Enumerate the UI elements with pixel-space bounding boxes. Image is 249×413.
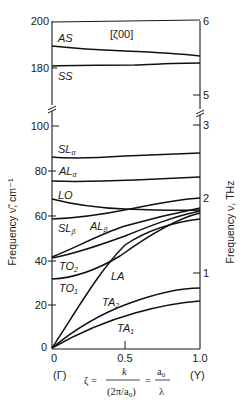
right-ticks: [193, 95, 200, 273]
svg-text:6: 6: [203, 15, 209, 27]
svg-text:ζ =: ζ =: [84, 375, 97, 387]
left-axis-title: Frequency ν̃, cm⁻¹: [6, 178, 18, 266]
svg-text:ALα: ALα: [58, 165, 77, 178]
svg-text:LA: LA: [111, 270, 124, 282]
svg-text:λ: λ: [159, 386, 165, 397]
left-ticks: [48, 68, 59, 305]
svg-text:AS: AS: [57, 32, 73, 44]
curve-AS: [52, 46, 200, 56]
svg-text:SS: SS: [58, 70, 73, 82]
svg-text:3: 3: [203, 119, 209, 131]
direction-label: [ζ00]: [110, 28, 133, 40]
svg-text:TA1: TA1: [117, 322, 134, 335]
svg-text:0.5: 0.5: [117, 352, 132, 364]
svg-text:a0: a0: [157, 366, 166, 379]
svg-text:=: =: [145, 375, 151, 386]
svg-text:k: k: [122, 366, 127, 377]
curve-TA2: [52, 288, 200, 348]
svg-text:20: 20: [35, 299, 47, 311]
svg-text:60: 60: [35, 210, 47, 222]
svg-text:SLα: SLα: [58, 143, 76, 156]
phonon-dispersion-chart: 200 180 100 80 60 40 20 0 6 5 3 2 1 0 0.…: [0, 0, 249, 413]
svg-text:ALβ: ALβ: [89, 220, 107, 234]
svg-text:2: 2: [203, 192, 209, 204]
curve-SS: [52, 63, 200, 66]
svg-text:TA2: TA2: [102, 296, 119, 309]
axis-break-marks: [48, 105, 204, 117]
svg-text:180: 180: [31, 62, 49, 74]
svg-text:100: 100: [31, 120, 49, 132]
svg-text:1: 1: [203, 267, 209, 279]
svg-text:LO: LO: [58, 189, 73, 201]
x-axis-formula: ζ = k (2π/a0) = a0 λ: [84, 366, 170, 399]
svg-text:TO2: TO2: [59, 260, 78, 273]
svg-text:(2π/a0): (2π/a0): [107, 386, 136, 399]
svg-text:TO1: TO1: [59, 282, 78, 295]
gamma-point-label: (Γ): [53, 369, 66, 381]
left-tick-labels: 200 180 100 80 60 40 20 0: [31, 15, 49, 353]
svg-text:200: 200: [31, 15, 49, 27]
svg-text:5: 5: [203, 89, 209, 101]
svg-text:0: 0: [51, 352, 57, 364]
svg-text:80: 80: [35, 165, 47, 177]
x-tick-labels: 0 0.5 1.0: [51, 352, 208, 364]
svg-text:1.0: 1.0: [192, 352, 207, 364]
right-tick-labels: 6 5 3 2 1: [203, 15, 209, 279]
right-axis-title: Frequency ν, THz: [224, 181, 236, 264]
svg-text:40: 40: [35, 255, 47, 267]
curve-labels: AS SS SLα ALα LO SLβ ALβ TO2 TO1 LA TA2 …: [57, 32, 134, 335]
plot-frame: [52, 20, 200, 349]
dispersion-curves: [52, 46, 200, 348]
y-point-label: (Y): [190, 369, 205, 381]
svg-text:SLβ: SLβ: [58, 222, 75, 236]
svg-text:0: 0: [41, 341, 47, 353]
